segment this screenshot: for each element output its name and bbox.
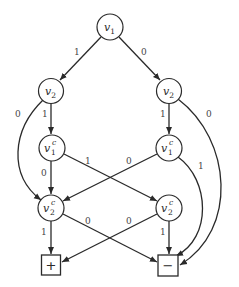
node-var: v	[161, 202, 168, 215]
node-subscript: 2	[51, 91, 56, 100]
node-subscript: 2	[168, 208, 173, 217]
edge-label: 0	[206, 109, 212, 119]
edge-label: 1	[160, 109, 166, 119]
edge-label: 0	[126, 156, 132, 166]
node-v1c-left: v 1 c	[39, 135, 65, 161]
minus-label: −	[163, 258, 174, 273]
node-var: v	[161, 142, 168, 155]
node-v2-left: v2	[39, 79, 64, 104]
node-subscript: 1	[51, 148, 56, 157]
node-subscript: 2	[50, 208, 55, 217]
node-v2c-right: v 2 c	[156, 195, 182, 221]
edge-v2r-minus	[178, 99, 221, 265]
edge-label: 1	[41, 227, 47, 237]
edge-label: 0	[85, 216, 91, 226]
node-var: v	[43, 202, 50, 215]
edge-v1-v2-left	[60, 37, 101, 80]
edge-v1-v2-right	[119, 37, 160, 80]
terminal-minus: −	[158, 255, 178, 276]
node-v2c-left: v 2 c	[38, 195, 64, 221]
node-v2-right: v2	[157, 79, 182, 104]
bdd-diagram: 1 0 1 0 1 0 0 1 0 1 1 0 0 1 v1 v2 v2 v 1…	[0, 0, 239, 287]
node-subscript: 1	[168, 148, 173, 157]
plus-label: +	[46, 258, 57, 273]
edge-label: 0	[15, 109, 21, 119]
node-subscript: 2	[169, 91, 174, 100]
edge-label: 1	[160, 227, 166, 237]
edge-label: 0	[41, 168, 47, 178]
edge-label: 1	[42, 109, 48, 119]
terminal-plus: +	[42, 255, 61, 275]
node-subscript: 1	[110, 27, 115, 36]
edge-label: 1	[74, 47, 80, 57]
edge-label: 0	[126, 216, 132, 226]
node-var: v	[44, 142, 51, 155]
node-v1: v1	[97, 14, 123, 40]
edge-label: 1	[198, 161, 204, 171]
node-v1c-right: v 1 c	[156, 135, 182, 161]
edge-label: 1	[85, 156, 91, 166]
edge-label: 0	[141, 47, 147, 57]
